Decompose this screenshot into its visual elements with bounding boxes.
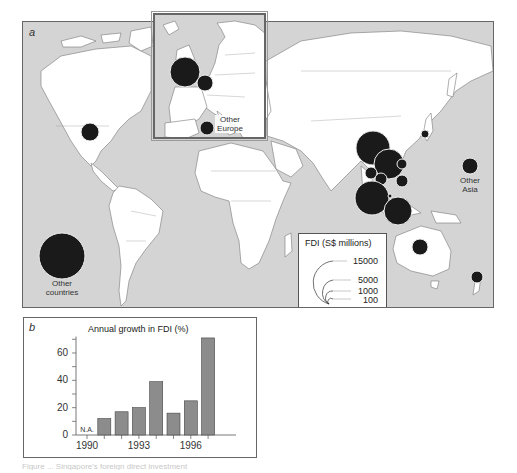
- legend-value-100: 100: [363, 295, 378, 305]
- bubble-brunei: [388, 194, 392, 198]
- bubble-uk: [170, 57, 200, 87]
- europe-inset-map: Other Europe: [153, 13, 266, 139]
- bubble-indonesia: [384, 197, 412, 225]
- bubble-philippines: [396, 175, 408, 187]
- y-tick-label: 40: [57, 374, 69, 385]
- bubble-netherlands: [197, 75, 213, 91]
- legend-value-5000: 5000: [358, 275, 378, 285]
- y-tick-label: 20: [57, 402, 69, 413]
- bubble-usa: [81, 123, 99, 141]
- bubble-other-asia: [462, 158, 478, 174]
- europe-inset-svg: [155, 15, 266, 139]
- x-tick-label: 1990: [76, 440, 99, 451]
- label-other-countries: Other countries: [45, 279, 79, 297]
- bar-chart-svg: 0204060199019931996N.A.: [24, 318, 258, 459]
- annual-growth-chart: b Annual growth in FDI (%) 0204060199019…: [23, 317, 257, 458]
- bar-1992: [115, 412, 128, 435]
- bubble-size-legend: FDI (S$ millions) 15000 5000 1000 100: [298, 233, 387, 308]
- bar-1993: [132, 408, 145, 435]
- bubble-new-zealand: [471, 271, 483, 283]
- bar-1991: [98, 419, 111, 435]
- land-masses: [41, 27, 493, 306]
- x-tick-label: 1996: [180, 440, 203, 451]
- bar-1996: [184, 401, 197, 435]
- bubble-other-europe: [200, 121, 214, 135]
- bubble-japan: [421, 130, 429, 138]
- panel-a-label: a: [29, 26, 35, 38]
- bubble-other-countries: [39, 233, 85, 279]
- x-tick-label: 1993: [128, 440, 151, 451]
- bubble-australia: [412, 239, 428, 255]
- bar-1997: [202, 338, 215, 435]
- y-tick-label: 60: [57, 347, 69, 358]
- label-other-europe: Other Europe: [215, 115, 245, 133]
- figure-caption: Figure ... Singapore's foreign direct in…: [22, 462, 342, 470]
- y-tick-label: 0: [62, 429, 68, 440]
- bar-1995: [167, 413, 180, 435]
- legend-value-15000: 15000: [353, 256, 378, 266]
- na-annotation: N.A.: [80, 426, 94, 433]
- label-other-asia: Other Asia: [456, 176, 484, 194]
- bubble-taiwan: [397, 159, 407, 169]
- bar-1994: [150, 382, 163, 435]
